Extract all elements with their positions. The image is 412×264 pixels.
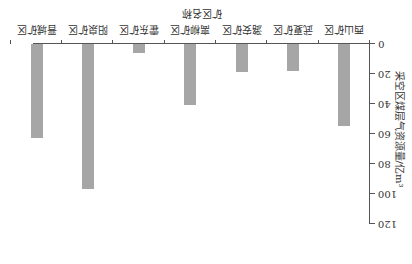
y-tick xyxy=(370,73,375,74)
bar xyxy=(236,44,248,73)
bar xyxy=(184,44,196,105)
y-tick-label: 0 xyxy=(378,39,400,50)
x-category-label: 西山矿区 xyxy=(320,23,368,38)
chart-stage: 采空区煤层气资源量/亿m³ 020406080100120 西山矿区武夏矿区潞安… xyxy=(0,0,412,264)
x-axis-title: 矿区名称 xyxy=(33,7,370,22)
x-tick xyxy=(113,40,114,44)
y-tick xyxy=(370,163,375,164)
x-category-label: 武夏矿区 xyxy=(269,23,317,38)
y-tick-label: 120 xyxy=(378,219,400,230)
x-category-label: 阳泉矿区 xyxy=(64,23,112,38)
x-category-label: 离柳矿区 xyxy=(166,23,214,38)
x-tick xyxy=(10,40,11,44)
bar xyxy=(82,44,94,189)
x-tick xyxy=(369,40,370,44)
bar xyxy=(31,44,43,139)
x-category-label: 霍东矿区 xyxy=(115,23,163,38)
y-tick-label: 100 xyxy=(378,189,400,200)
y-tick xyxy=(370,43,375,44)
x-tick xyxy=(215,40,216,44)
bar xyxy=(338,44,350,127)
x-tick xyxy=(164,40,165,44)
y-tick xyxy=(370,103,375,104)
y-tick-label: 60 xyxy=(378,129,400,140)
y-tick-label: 80 xyxy=(378,159,400,170)
y-tick xyxy=(370,193,375,194)
bar xyxy=(287,44,299,71)
x-category-label: 晋城矿区 xyxy=(13,23,61,38)
y-tick xyxy=(370,133,375,134)
x-category-label: 潞安矿区 xyxy=(218,23,266,38)
x-tick xyxy=(61,40,62,44)
x-tick xyxy=(266,40,267,44)
y-tick-label: 40 xyxy=(378,99,400,110)
y-tick-label: 20 xyxy=(378,69,400,80)
y-tick xyxy=(370,223,375,224)
bar xyxy=(133,44,145,53)
x-tick xyxy=(318,40,319,44)
